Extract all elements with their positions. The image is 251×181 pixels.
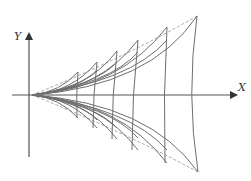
lower-branches <box>32 95 198 172</box>
x-axis-label: X <box>238 82 246 93</box>
lower-envelope <box>32 95 200 173</box>
diagram-canvas <box>0 0 251 181</box>
y-axis-label: Y <box>14 31 21 42</box>
upper-branches <box>32 16 198 172</box>
upper-envelope <box>32 15 199 95</box>
